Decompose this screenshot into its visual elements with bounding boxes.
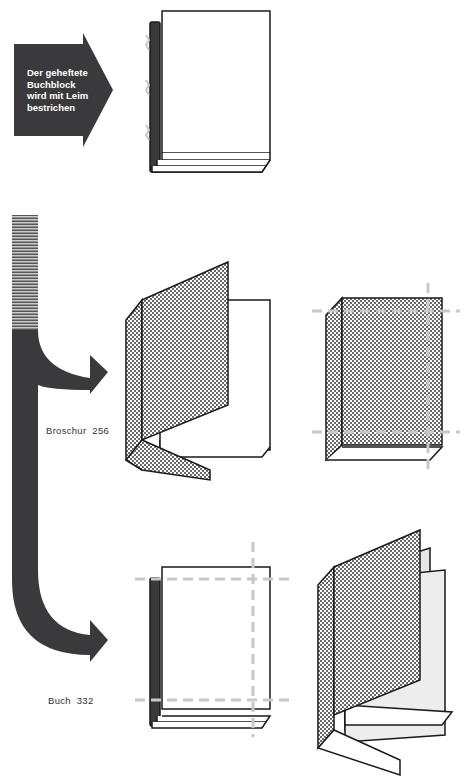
- paperback-trimmed: [326, 298, 442, 460]
- stapled-book-block: [146, 11, 270, 172]
- hardcover-open: [318, 530, 452, 775]
- step-label-line: Der geheftete: [27, 67, 107, 79]
- flow-arrow: [12, 215, 108, 662]
- step-label-line: bestrichen: [27, 102, 107, 114]
- step-label-line: wird mit Leim: [27, 90, 107, 102]
- step-label-line: Buchblock: [27, 79, 107, 91]
- caption-broschur: Broschur 256: [46, 425, 109, 436]
- caption-buch: Buch 332: [48, 695, 93, 706]
- staple-icon: [146, 35, 149, 140]
- paperback-cover-open: [126, 262, 270, 480]
- step-arrow-label: Der geheftete Buchblock wird mit Leim be…: [27, 67, 107, 113]
- diagram-canvas: [0, 0, 466, 779]
